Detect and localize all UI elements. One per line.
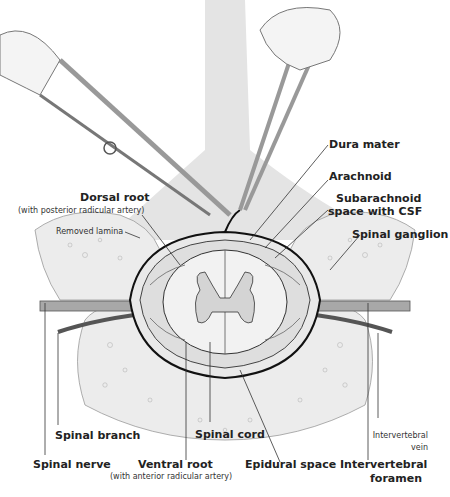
label-subarachnoid-1: Subarachnoid <box>336 192 421 205</box>
label-ventral-root: Ventral root <box>138 458 213 471</box>
label-spinal-ganglion: Spinal ganglion <box>352 228 448 241</box>
spinal-anatomy-illustration <box>0 0 450 497</box>
label-intervertebral-foramen-1: Intervertebral <box>340 458 422 471</box>
label-intervertebral-foramen-2: foramen <box>340 472 422 485</box>
label-arachnoid: Arachnoid <box>329 170 392 183</box>
left-hand <box>0 31 60 95</box>
label-intervertebral-vein-1: Intervertebral <box>370 431 428 441</box>
label-dura-mater: Dura mater <box>329 138 400 151</box>
label-dorsal-root: Dorsal root <box>80 191 149 204</box>
label-intervertebral-vein-2: vein <box>370 443 428 453</box>
right-hand <box>260 8 340 71</box>
label-subarachnoid-2: space with CSF <box>328 205 422 218</box>
label-dorsal-root-sub: (with posterior radicular artery) <box>18 206 144 216</box>
label-removed-lamina: Removed lamina <box>56 227 123 237</box>
label-spinal-cord: Spinal cord <box>195 428 265 441</box>
label-spinal-nerve: Spinal nerve <box>33 458 111 471</box>
label-epidural-space: Epidural space <box>245 458 336 471</box>
label-ventral-root-sub: (with anterior radicular artery) <box>110 472 232 482</box>
label-spinal-branch: Spinal branch <box>55 429 140 442</box>
